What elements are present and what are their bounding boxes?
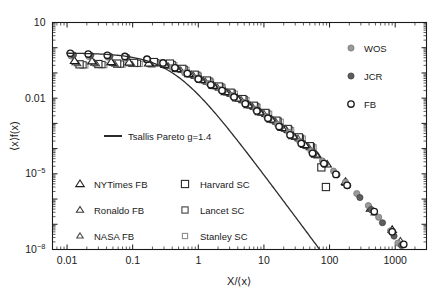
legend-bl-item[interactable]: NASA FB xyxy=(77,231,134,242)
data-points-layer xyxy=(67,50,407,248)
y-axis-title: ⟨x⟩f(x) xyxy=(8,121,20,150)
y-tick-label: 0.01 xyxy=(25,92,46,104)
series-wos xyxy=(68,53,401,246)
data-point xyxy=(104,52,110,58)
x-tick-label: 0.1 xyxy=(125,254,140,266)
data-point xyxy=(344,182,350,188)
data-point xyxy=(265,115,271,121)
legend-br-item[interactable]: Lancet SC xyxy=(182,205,245,216)
data-point xyxy=(379,220,385,226)
legend-top-marker-open-circle-icon xyxy=(348,101,354,107)
data-point xyxy=(172,65,178,71)
legend-br-label: Stanley SC xyxy=(200,231,248,242)
legend-top-right: WOSJCRFB xyxy=(348,43,387,110)
data-point xyxy=(254,108,260,114)
legend-br-label: Lancet SC xyxy=(200,205,244,216)
legend-bl-item[interactable]: Ronaldo FB xyxy=(76,205,144,216)
x-tick-label: 10 xyxy=(258,254,270,266)
legend-top-label: WOS xyxy=(364,43,387,54)
data-point xyxy=(231,94,237,100)
legend-bottom-left: NYTimes FBRonaldo FBNASA FB xyxy=(76,179,148,242)
legend-br-item[interactable]: Stanley SC xyxy=(182,231,247,242)
y-tick-label: 10−5 xyxy=(25,166,45,179)
x-tick-label: 1000 xyxy=(384,254,408,266)
data-point xyxy=(321,160,327,166)
legend-top-marker-filled-circle-icon xyxy=(348,73,354,79)
x-tick-label: 100 xyxy=(321,254,339,266)
legend-bl-label: NYTimes FB xyxy=(94,179,147,190)
legend-br-label: Harvard SC xyxy=(200,179,250,190)
data-point xyxy=(276,123,282,129)
legend-bl-label: Ronaldo FB xyxy=(94,205,144,216)
legend-bl-marker-open-triangle-icon xyxy=(77,233,83,238)
data-point xyxy=(371,208,377,214)
data-point xyxy=(160,60,166,66)
legend-fit-label: Tsallis Pareto g=1.4 xyxy=(128,131,211,142)
legend-bl-marker-open-triangle-icon xyxy=(76,207,83,213)
data-point xyxy=(219,87,225,93)
data-point xyxy=(389,229,395,235)
x-tick-label: 0.01 xyxy=(57,254,78,266)
scatter-plot: 0.010.11101001000 100.0110−510−8 X/⟨x⟩ ⟨… xyxy=(0,0,447,294)
legend-br-marker-open-square-icon xyxy=(182,233,187,238)
data-point xyxy=(333,171,339,177)
legend-fit-line: Tsallis Pareto g=1.4 xyxy=(104,131,211,142)
legend-br-marker-open-square-icon xyxy=(182,207,188,213)
data-point xyxy=(309,150,315,156)
data-point xyxy=(298,140,304,146)
series-jcr xyxy=(70,52,404,249)
data-point xyxy=(401,241,407,247)
data-point xyxy=(242,101,248,107)
legend-top-item[interactable]: FB xyxy=(348,99,376,110)
legend-br-item[interactable]: Harvard SC xyxy=(181,179,249,190)
legend-top-marker-filled-circle-icon xyxy=(348,45,354,51)
y-tick-label: 10−8 xyxy=(25,242,45,255)
legend-bl-item[interactable]: NYTimes FB xyxy=(76,179,148,190)
legend-top-item[interactable]: JCR xyxy=(348,71,383,82)
legend-bottom-right: Harvard SCLancet SCStanley SC xyxy=(181,179,249,242)
data-point xyxy=(376,214,382,220)
x-axis-tick-labels: 0.010.11101001000 xyxy=(57,254,407,266)
tsallis-pareto-fit-line xyxy=(66,53,319,249)
data-point xyxy=(287,132,293,138)
figure-container: 0.010.11101001000 100.0110−510−8 X/⟨x⟩ ⟨… xyxy=(0,0,447,294)
legend-fit-item[interactable]: Tsallis Pareto g=1.4 xyxy=(104,131,211,142)
data-point xyxy=(357,194,363,200)
data-point xyxy=(208,82,214,88)
series-nasa-fb xyxy=(74,61,377,215)
y-axis-tick-labels: 100.0110−510−8 xyxy=(25,16,46,255)
legend-top-item[interactable]: WOS xyxy=(348,43,387,54)
data-point xyxy=(322,183,329,190)
legend-bl-label: NASA FB xyxy=(94,231,134,242)
series-fb xyxy=(67,50,407,247)
legend-top-label: FB xyxy=(364,99,376,110)
legend-top-label: JCR xyxy=(364,71,383,82)
data-point xyxy=(195,76,201,82)
data-point xyxy=(184,70,190,76)
legend-br-marker-open-square-icon xyxy=(181,180,188,187)
x-tick-label: 1 xyxy=(195,254,201,266)
x-axis-title: X/⟨x⟩ xyxy=(227,275,251,287)
legend-bl-marker-open-triangle-icon xyxy=(76,180,84,187)
y-tick-label: 10 xyxy=(34,16,46,28)
